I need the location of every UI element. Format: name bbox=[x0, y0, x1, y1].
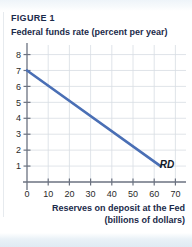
svg-text:6: 6 bbox=[16, 82, 21, 92]
svg-text:8: 8 bbox=[16, 50, 21, 60]
svg-text:5: 5 bbox=[16, 98, 21, 108]
y-axis-ticks: 12345678 bbox=[16, 50, 31, 172]
x-axis-caption: Reserves on deposit at the Fed (billions… bbox=[0, 203, 185, 226]
plot-area: 12345678 010203040506070 RD bbox=[0, 41, 192, 201]
svg-text:7: 7 bbox=[16, 66, 21, 76]
svg-text:0: 0 bbox=[24, 189, 29, 199]
svg-text:60: 60 bbox=[149, 189, 159, 199]
svg-text:30: 30 bbox=[86, 189, 96, 199]
svg-text:RD: RD bbox=[160, 159, 174, 170]
svg-text:10: 10 bbox=[43, 189, 53, 199]
top-decorative-band bbox=[0, 0, 192, 11]
svg-text:20: 20 bbox=[64, 189, 74, 199]
svg-text:4: 4 bbox=[16, 113, 21, 123]
svg-text:70: 70 bbox=[170, 189, 180, 199]
svg-text:2: 2 bbox=[16, 145, 21, 155]
svg-text:40: 40 bbox=[107, 189, 117, 199]
svg-text:1: 1 bbox=[16, 161, 21, 171]
figure-card: FIGURE 1 Federal funds rate (percent per… bbox=[0, 0, 192, 247]
x-axis-caption-line-1: Reserves on deposit at the Fed bbox=[0, 203, 185, 215]
line-chart-svg: 12345678 010203040506070 RD bbox=[0, 41, 192, 201]
figure-label: FIGURE 1 bbox=[11, 13, 55, 23]
y-axis-title: Federal funds rate (percent per year) bbox=[11, 27, 168, 37]
svg-text:50: 50 bbox=[128, 189, 138, 199]
annotation-layer: RD bbox=[160, 159, 174, 170]
bottom-decorative-band bbox=[0, 233, 192, 247]
svg-text:3: 3 bbox=[16, 129, 21, 139]
x-axis-caption-line-2: (billions of dollars) bbox=[0, 215, 185, 227]
